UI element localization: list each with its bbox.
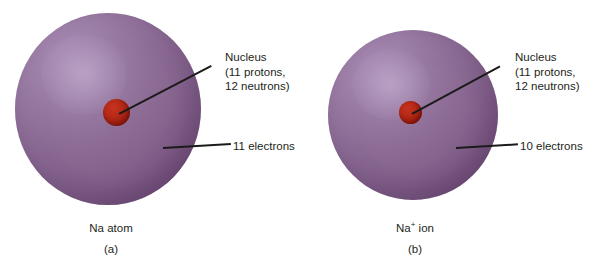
caption-symbol-na-atom: Na [89,222,104,234]
nucleus-label-line-3: 12 neutrons) [515,79,580,94]
nucleus-label-line-2: (11 protons, [515,65,580,80]
nucleus-label-line-3: 12 neutrons) [225,79,290,94]
nucleus-circle-na-atom [103,99,130,126]
caption-symbol-na-ion: Na [396,222,411,234]
nucleus-label-na-atom: Nucleus (11 protons, 12 neutrons) [225,50,290,94]
caption-suffix-na-atom: atom [104,222,133,234]
panel-letter-b: (b) [330,243,500,255]
nucleus-label-line-2: (11 protons, [225,65,290,80]
nucleus-label-na-ion: Nucleus (11 protons, 12 neutrons) [515,50,580,94]
sodium-atom-ion-figure: Nucleus (11 protons, 12 neutrons) 11 ele… [0,0,591,271]
panel-letter-a: (a) [0,243,222,255]
panel-na-atom: Nucleus (11 protons, 12 neutrons) 11 ele… [0,0,296,271]
caption-suffix-na-ion: ion [415,222,434,234]
nucleus-label-line-1: Nucleus [225,50,290,65]
electrons-label-na-atom: 11 electrons [233,139,295,154]
caption-na-ion: Na+ ion [330,220,500,234]
nucleus-label-line-1: Nucleus [515,50,580,65]
electrons-label-na-ion: 10 electrons [520,139,583,154]
caption-na-atom: Na atom [0,220,222,234]
